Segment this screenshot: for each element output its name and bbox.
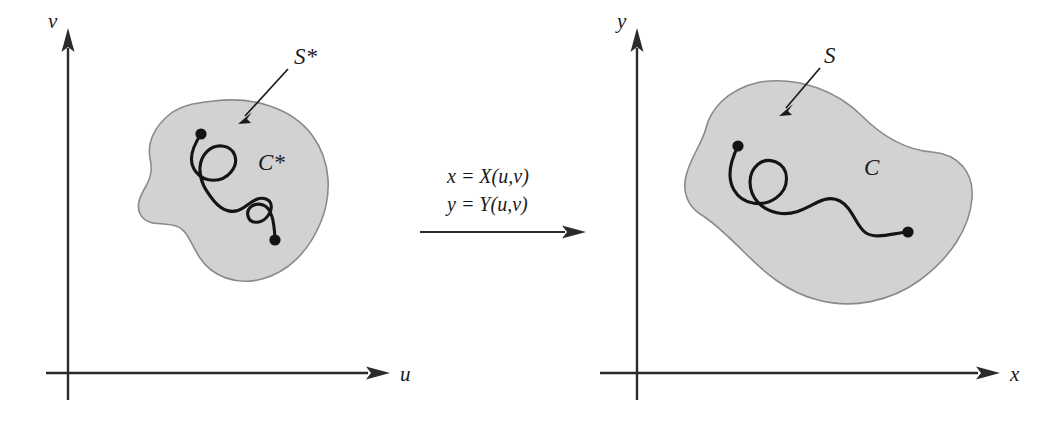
y-axis-label: y: [615, 9, 627, 33]
transform-block: x = X(u,v) y = Y(u,v): [420, 165, 586, 239]
region-label-s: S: [824, 43, 836, 68]
curve-label-c-star: C*: [258, 150, 285, 175]
transformation-figure: v u S* C* x = X(u,v) y =: [0, 0, 1042, 421]
u-axis-label: u: [400, 362, 411, 386]
v-axis-label: v: [48, 9, 58, 33]
region-s: [685, 81, 972, 304]
uv-plane-panel: v u S* C*: [46, 9, 411, 400]
curve-c-star-end-point: [269, 234, 280, 245]
equation-x: x = X(u,v): [446, 165, 529, 188]
equation-y: y = Y(u,v): [445, 193, 528, 216]
u-axis: [46, 367, 390, 380]
curve-c-end-point: [902, 226, 913, 237]
x-axis-arrowhead: [976, 367, 1000, 380]
region-label-s-star: S*: [294, 44, 318, 69]
v-axis: [62, 28, 75, 400]
transform-arrow: [420, 226, 586, 239]
curve-label-c: C: [864, 155, 880, 180]
region-s-star: [138, 100, 328, 281]
x-axis: [600, 367, 1000, 380]
u-axis-arrowhead: [366, 367, 390, 380]
curve-c-start-point: [732, 140, 743, 151]
xy-plane-panel: y x S C: [600, 9, 1020, 400]
transform-arrow-head: [562, 226, 586, 239]
curve-c-star-start-point: [195, 128, 206, 139]
x-axis-label: x: [1009, 362, 1020, 386]
figure-canvas: v u S* C* x = X(u,v) y =: [0, 0, 1042, 421]
y-axis: [631, 28, 644, 400]
